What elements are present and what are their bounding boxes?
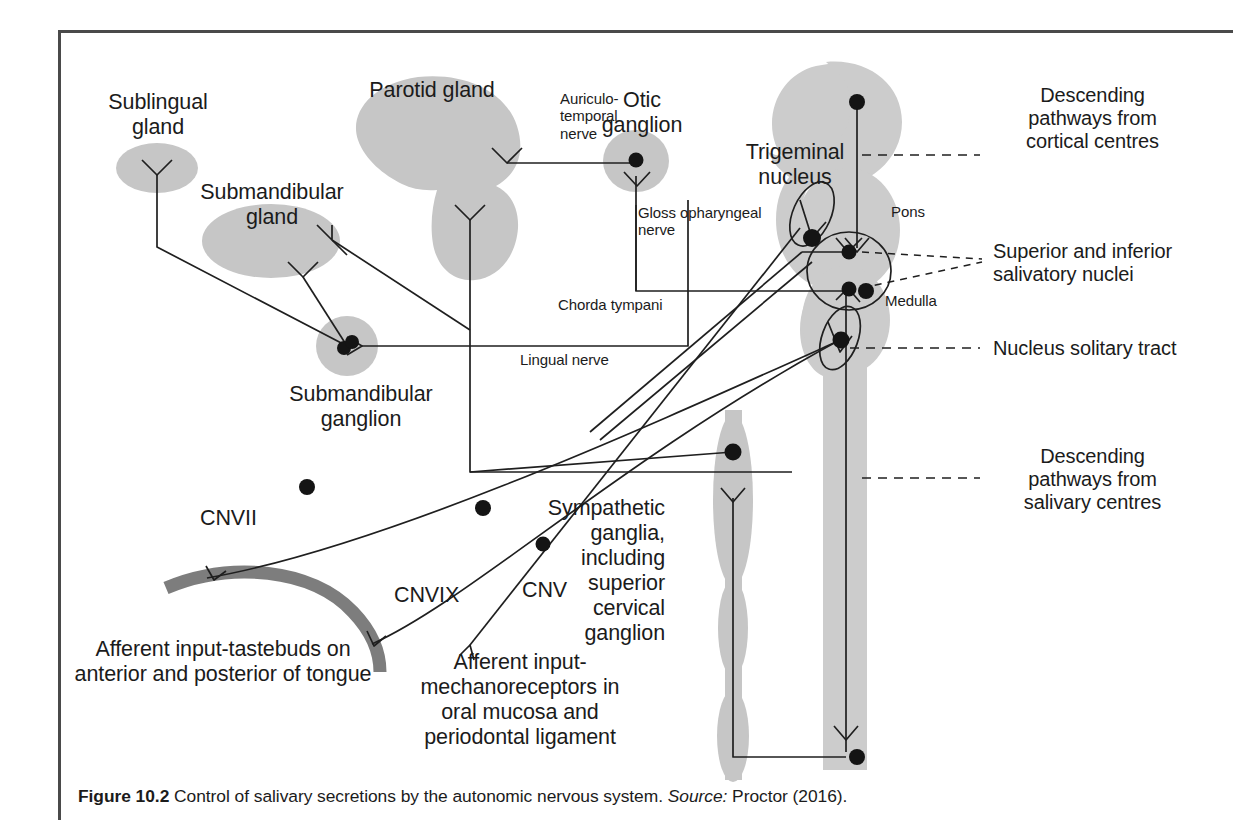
label-descending-cortical: Descending pathways from cortical centre… xyxy=(985,84,1200,154)
figure-source-label: Source: xyxy=(668,786,728,806)
node-superior-salivatory xyxy=(842,245,857,260)
node-superior-cervical-ganglion xyxy=(725,444,742,461)
node-nucleus-solitary-tract xyxy=(833,332,850,349)
label-cnvii: CNVII xyxy=(200,506,320,531)
label-medulla: Medulla xyxy=(885,292,965,309)
label-sympathetic-ganglia: Sympathetic ganglia, including superior … xyxy=(505,496,665,646)
label-trigeminal-nucleus: Trigeminal nucleus xyxy=(700,140,890,190)
spinal-cord-shape xyxy=(823,350,867,770)
figure-number: Figure 10.2 xyxy=(78,786,169,806)
label-lingual-nerve: Lingual nerve xyxy=(520,351,680,368)
parotid-gland-shape xyxy=(356,76,520,280)
sympathetic-postganglionic xyxy=(470,452,733,472)
label-descending-salivary: Descending pathways from salivary centre… xyxy=(985,445,1200,515)
node-spinal-preganglionic xyxy=(849,749,865,765)
label-pons: Pons xyxy=(891,203,951,220)
figure-caption-main: Control of salivary secretions by the au… xyxy=(174,786,663,806)
node-inferior-salivatory xyxy=(842,282,857,297)
label-cnvix: CNVIX xyxy=(394,583,514,608)
label-submandibular-gland: Submandibular gland xyxy=(182,180,362,230)
node-otic-ganglion xyxy=(629,153,644,168)
figure-source-value: Proctor (2016). xyxy=(732,786,847,806)
label-otic-ganglion: Otic ganglion xyxy=(594,88,690,138)
label-afferent-tastebuds: Afferent input-tastebuds on anterior and… xyxy=(58,637,388,687)
label-parotid-gland: Parotid gland xyxy=(352,78,512,103)
label-sublingual-gland: Sublingual gland xyxy=(78,90,238,140)
figure-caption: Figure 10.2 Control of salivary secretio… xyxy=(78,786,847,807)
node-cortical xyxy=(849,94,865,110)
label-submandibular-ganglion: Submandibular ganglion xyxy=(266,382,456,432)
node-cnvii xyxy=(299,479,315,495)
node-cnvix xyxy=(475,500,491,516)
node-nuclei-extra xyxy=(858,283,874,299)
node-submandibular-ganglion-b xyxy=(345,335,359,349)
label-afferent-mechanoreceptors: Afferent input- mechanoreceptors in oral… xyxy=(400,650,640,750)
label-nucleus-solitary-tract: Nucleus solitary tract xyxy=(993,337,1233,360)
figure-page: .organ { fill: #c6c6c6; } .brain { fill:… xyxy=(0,0,1233,829)
label-chorda-tympani: Chorda tympani xyxy=(558,296,748,313)
label-glossopharyngeal-nerve: Gloss opharyngeal nerve xyxy=(638,204,828,239)
label-salivatory-nuclei: Superior and inferior salivatory nuclei xyxy=(993,240,1233,286)
